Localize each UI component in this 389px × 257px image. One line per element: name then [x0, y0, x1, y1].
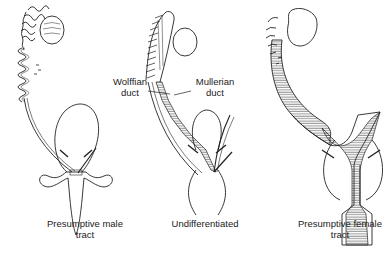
- mullerian-duct-label: Mullerian duct: [190, 76, 240, 98]
- reproductive-tract-diagram: Wolffian duct Mullerian duct Presumptive…: [0, 0, 389, 257]
- caption-undifferentiated: Undifferentiated: [160, 218, 250, 229]
- mullerian-leader-line: [174, 91, 191, 95]
- wolffian-leader-line: [148, 91, 170, 94]
- caption-male: Presumptive male tract: [30, 218, 140, 240]
- caption-female: Presumptive female tract: [285, 218, 389, 240]
